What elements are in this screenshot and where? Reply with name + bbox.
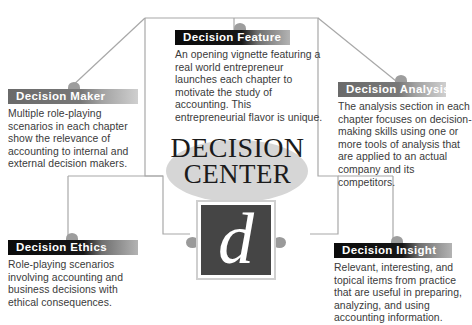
panel-title: Decision Insight xyxy=(334,243,443,258)
panel-body: The analysis section in each chapter foc… xyxy=(338,101,472,189)
panel-body: Relevant, interesting, and topical items… xyxy=(334,262,472,325)
panel-decision-analysis: Decision Analysis The analysis section i… xyxy=(338,82,472,189)
panel-decision-insight: Decision Insight Relevant, interesting, … xyxy=(334,243,472,325)
wordmark-line-2: CENTER xyxy=(160,161,315,187)
panel-body: Role-playing scenarios involving account… xyxy=(8,259,148,309)
panel-decision-feature: Decision Feature An opening vignette fea… xyxy=(175,30,323,125)
logo-inner-square: d xyxy=(201,205,271,275)
panel-title: Decision Maker xyxy=(8,89,112,104)
panel-header-decision-ethics: Decision Ethics xyxy=(8,240,138,255)
panel-title: Decision Feature xyxy=(175,30,288,45)
panel-header-decision-feature: Decision Feature xyxy=(175,30,290,45)
panel-decision-ethics: Decision Ethics Role-playing scenarios i… xyxy=(8,240,148,309)
panel-body: An opening vignette featuring a real wor… xyxy=(175,49,323,125)
logo-letter-d: d xyxy=(201,205,271,275)
wordmark-line-1: DECISION xyxy=(160,134,315,161)
panel-header-decision-insight: Decision Insight xyxy=(334,243,452,258)
panel-title: Decision Ethics xyxy=(8,240,114,255)
panel-header-decision-maker: Decision Maker xyxy=(8,89,138,104)
panel-title: Decision Analysis xyxy=(338,82,446,97)
panel-header-decision-analysis: Decision Analysis xyxy=(338,82,446,97)
panel-body: Multiple role-playing scenarios in each … xyxy=(8,108,148,171)
panel-decision-maker: Decision Maker Multiple role-playing sce… xyxy=(8,89,148,171)
decision-center-wordmark: DECISION CENTER xyxy=(160,134,315,188)
decision-center-logo: d xyxy=(196,200,276,280)
